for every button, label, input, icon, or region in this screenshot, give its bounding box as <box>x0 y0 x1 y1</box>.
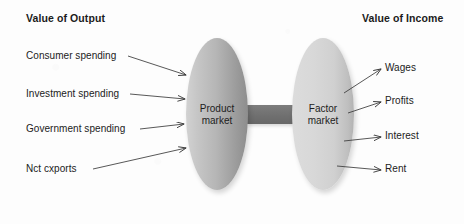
inflow-label-investment-spending: Investment spending <box>26 88 119 99</box>
node-factor-market-label: Factor market <box>292 103 354 126</box>
node-factor-market: Factor market <box>292 38 354 190</box>
inflow-label-net-exports: Nct cxports <box>26 163 77 174</box>
arrow-investment-spending <box>130 94 185 99</box>
market-connector-bar <box>247 105 293 124</box>
arrow-net-exports <box>93 148 186 169</box>
node-factor-market-label-line1: Factor <box>309 103 337 114</box>
node-product-market-label: Product market <box>186 103 248 126</box>
node-product-market: Product market <box>186 38 248 190</box>
outflow-label-wages: Wages <box>385 62 416 73</box>
outflow-label-rent: Rent <box>385 163 406 174</box>
diagram-canvas: Value of Output Value of Income Consumer… <box>0 0 464 224</box>
arrow-consumer-spending <box>128 56 186 75</box>
arrow-government-spending <box>140 124 184 129</box>
inflow-label-consumer-spending: Consumer spending <box>26 50 116 61</box>
node-product-market-label-line1: Product <box>200 103 234 114</box>
outflow-label-interest: Interest <box>385 130 419 141</box>
heading-value-of-income: Value of Income <box>362 12 443 24</box>
heading-value-of-output: Value of Output <box>26 12 105 24</box>
node-product-market-label-line2: market <box>202 114 233 125</box>
outflow-label-profits: Profits <box>385 95 414 106</box>
node-factor-market-label-line2: market <box>308 114 339 125</box>
inflow-label-government-spending: Government spending <box>26 123 125 134</box>
